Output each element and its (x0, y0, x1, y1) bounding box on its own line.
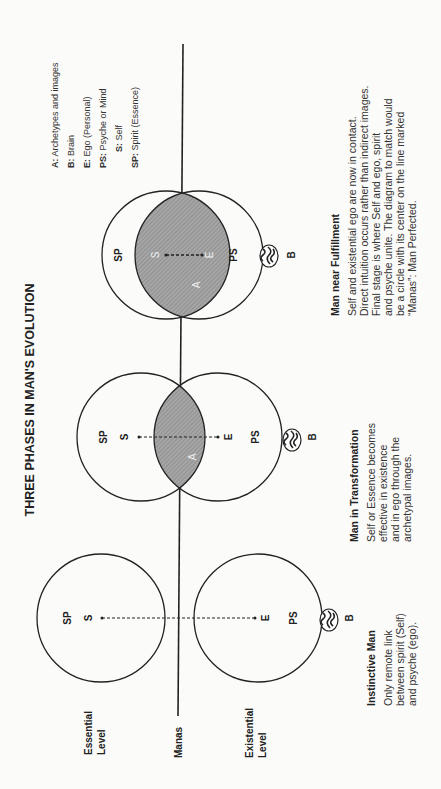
svg-text:and psyche (ego).: and psyche (ego). (406, 622, 418, 706)
svg-text:Instinctive Man: Instinctive Man (365, 630, 377, 706)
svg-text:Level: Level (96, 729, 107, 755)
svg-text:PS: PS (250, 430, 261, 444)
svg-text:effective in existence: effective in existence (377, 445, 389, 542)
phase-caption: Man in Transformation Self or Essence be… (348, 423, 413, 542)
svg-text:E: E (260, 614, 271, 621)
manas-line (178, 44, 183, 716)
legend: A: Archetypes and images B: Brain E: Ego… (50, 62, 140, 168)
svg-text:Direct intuition occurs rather: Direct intuition occurs rather than indi… (358, 85, 370, 316)
svg-text:and in ego through the: and in ego through the (389, 437, 401, 542)
legend-item: SP: Spirit (Essence) (130, 87, 140, 168)
svg-text:PS: PS (288, 611, 299, 625)
manas-label: Manas (173, 726, 184, 758)
svg-text:Level: Level (257, 732, 268, 758)
svg-text:B: B (344, 614, 355, 621)
page-title: THREE PHASES IN MAN'S EVOLUTION (23, 284, 37, 517)
svg-text:“Manas”: Man Perfected.: “Manas”: Man Perfected. (406, 200, 418, 316)
phase-instinctive-man: SP S E PS B Instinctive Man Only remote … (37, 554, 418, 706)
svg-text:THREE PHASES IN MAN'S EVOLUTIO: THREE PHASES IN MAN'S EVOLUTION (23, 284, 37, 517)
essential-level-label: Essential Level (83, 711, 107, 755)
svg-text:B: B (286, 251, 297, 258)
svg-text:archetypal images.: archetypal images. (401, 454, 413, 542)
existential-level-label: Existential Level (244, 708, 268, 758)
svg-text:Essential: Essential (83, 711, 94, 755)
svg-text:Existential: Existential (244, 708, 255, 758)
svg-text:E: E (223, 433, 234, 440)
svg-text:E: E (204, 251, 215, 258)
svg-text:Man near Fulfillment: Man near Fulfillment (329, 213, 341, 316)
svg-text:between spirit (Self): between spirit (Self) (394, 613, 406, 706)
phase-caption: Instinctive Man Only remote link between… (365, 613, 418, 706)
legend-item: E: Ego (Personal) (82, 96, 92, 168)
svg-text:SP: SP (113, 248, 124, 262)
brain-icon (283, 429, 301, 451)
evolution-diagram: THREE PHASES IN MAN'S EVOLUTION Essentia… (0, 0, 441, 789)
brain-icon (320, 609, 338, 631)
svg-text:and psyche unite. The diagram: and psyche unite. The diagram to match w… (382, 98, 394, 316)
legend-item: A: Archetypes and images (50, 62, 60, 168)
svg-text:Man in Transformation: Man in Transformation (348, 429, 360, 542)
svg-text:PS: PS (228, 248, 239, 262)
phase-man-near-fulfillment: SP S E PS B A Man near Fulfillment Self … (102, 85, 418, 319)
svg-text:Final stage is where Self and: Final stage is where Self and ego, spiri… (370, 133, 382, 316)
svg-text:B: B (307, 433, 318, 440)
svg-text:be a circle with its center on: be a circle with its center on the line … (394, 112, 406, 316)
svg-text:SP: SP (98, 430, 109, 444)
svg-text:A: A (191, 281, 202, 288)
svg-text:S: S (83, 614, 94, 621)
svg-text:Self or Essence becomes: Self or Essence becomes (365, 423, 377, 542)
svg-text:Only remote link: Only remote link (382, 629, 394, 706)
phase-man-in-transformation: SP S E PS B A Man in Transformation Self… (77, 373, 413, 542)
legend-item: S: Self (114, 124, 124, 152)
diagram-page: THREE PHASES IN MAN'S EVOLUTION Essentia… (0, 0, 441, 789)
svg-text:S: S (150, 251, 161, 258)
svg-text:Self and existential ego are: Self and existential ego are now in cont… (346, 116, 358, 316)
svg-text:SP: SP (62, 611, 73, 625)
brain-icon (260, 245, 278, 267)
svg-text:S: S (119, 433, 130, 440)
legend-item: PS: Psyche or Mind (98, 88, 108, 168)
phase-caption: Man near Fulfillment Self and existentia… (329, 85, 418, 316)
svg-text:A: A (187, 453, 198, 460)
legend-item: B: Brain (66, 135, 76, 168)
svg-text:Manas: Manas (173, 726, 184, 758)
